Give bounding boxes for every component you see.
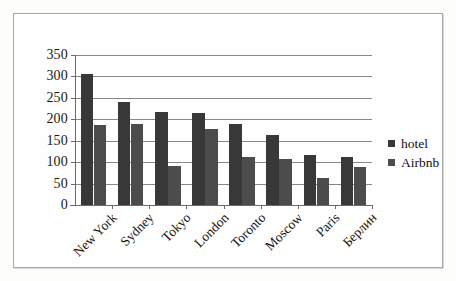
x-axis-category-label: Moscow bbox=[262, 210, 306, 254]
x-axis-line bbox=[70, 205, 373, 206]
x-axis-category-label: Берлин bbox=[340, 210, 381, 251]
bar-airbnb-4 bbox=[242, 157, 255, 205]
y-axis-tick-label: 200 bbox=[46, 111, 68, 127]
bar-hotel-3 bbox=[192, 113, 205, 205]
gridline-300 bbox=[75, 76, 372, 77]
gridline-350 bbox=[75, 55, 372, 56]
screenshot-canvas: 050100150200250300350 New YorkSydneyToky… bbox=[0, 0, 456, 281]
x-tick-3 bbox=[224, 205, 225, 209]
x-axis-category-label: Paris bbox=[313, 210, 343, 240]
x-tick-5 bbox=[298, 205, 299, 209]
bar-hotel-5 bbox=[266, 135, 279, 205]
bar-airbnb-7 bbox=[354, 167, 367, 205]
bar-hotel-6 bbox=[304, 155, 317, 205]
legend-item-airbnb[interactable]: Airbnb bbox=[388, 153, 439, 172]
plot-area: 050100150200250300350 New YorkSydneyToky… bbox=[75, 55, 372, 205]
bar-hotel-2 bbox=[155, 112, 168, 205]
x-axis-category-label: Sydney bbox=[118, 210, 158, 250]
bar-airbnb-6 bbox=[317, 178, 330, 205]
y-axis-tick-label: 0 bbox=[61, 197, 68, 213]
bar-hotel-1 bbox=[118, 102, 131, 205]
legend-item-hotel[interactable]: hotel bbox=[388, 134, 439, 153]
bar-hotel-0 bbox=[81, 74, 94, 205]
x-tick-6 bbox=[335, 205, 336, 209]
x-tick-4 bbox=[261, 205, 262, 209]
bar-airbnb-0 bbox=[94, 125, 107, 205]
x-axis-label-4: Toronto bbox=[228, 210, 269, 251]
bar-airbnb-5 bbox=[279, 159, 292, 205]
y-axis-line bbox=[75, 55, 76, 206]
x-axis-label-5: Moscow bbox=[262, 210, 306, 254]
x-tick-1 bbox=[149, 205, 150, 209]
chart-legend: hotelAirbnb bbox=[388, 134, 439, 172]
legend-label: hotel bbox=[401, 136, 428, 152]
x-tick-7 bbox=[372, 205, 373, 209]
gridline-250 bbox=[75, 98, 372, 99]
square-swatch-dark-icon bbox=[388, 140, 395, 147]
x-axis-label-6: Paris bbox=[313, 210, 343, 240]
x-tick-2 bbox=[186, 205, 187, 209]
chart-frame: 050100150200250300350 New YorkSydneyToky… bbox=[13, 13, 443, 268]
x-axis-label-3: London bbox=[191, 210, 232, 251]
y-axis-tick-label: 50 bbox=[54, 176, 68, 192]
bar-hotel-4 bbox=[229, 124, 242, 205]
y-axis-tick-label: 300 bbox=[46, 68, 68, 84]
bar-hotel-7 bbox=[341, 157, 354, 205]
y-axis-tick-label: 250 bbox=[46, 90, 68, 106]
x-tick-0 bbox=[112, 205, 113, 209]
x-axis-label-1: Sydney bbox=[118, 210, 158, 250]
x-axis-category-label: Tokyo bbox=[159, 210, 195, 246]
x-axis-category-label: London bbox=[191, 210, 232, 251]
bar-airbnb-3 bbox=[205, 129, 218, 205]
y-axis-tick-label: 100 bbox=[46, 154, 68, 170]
legend-label: Airbnb bbox=[401, 155, 439, 171]
bar-airbnb-1 bbox=[131, 124, 144, 205]
bar-airbnb-2 bbox=[168, 166, 181, 205]
y-axis-tick-label: 150 bbox=[46, 133, 68, 149]
square-swatch-gray-icon bbox=[388, 159, 395, 166]
x-axis-label-2: Tokyo bbox=[159, 210, 195, 246]
x-axis-category-label: Toronto bbox=[228, 210, 269, 251]
x-axis-category-label: New York bbox=[70, 210, 120, 260]
x-axis-label-7: Берлин bbox=[340, 210, 381, 251]
x-axis-label-0: New York bbox=[70, 210, 120, 260]
y-axis-tick-label: 350 bbox=[46, 47, 68, 63]
